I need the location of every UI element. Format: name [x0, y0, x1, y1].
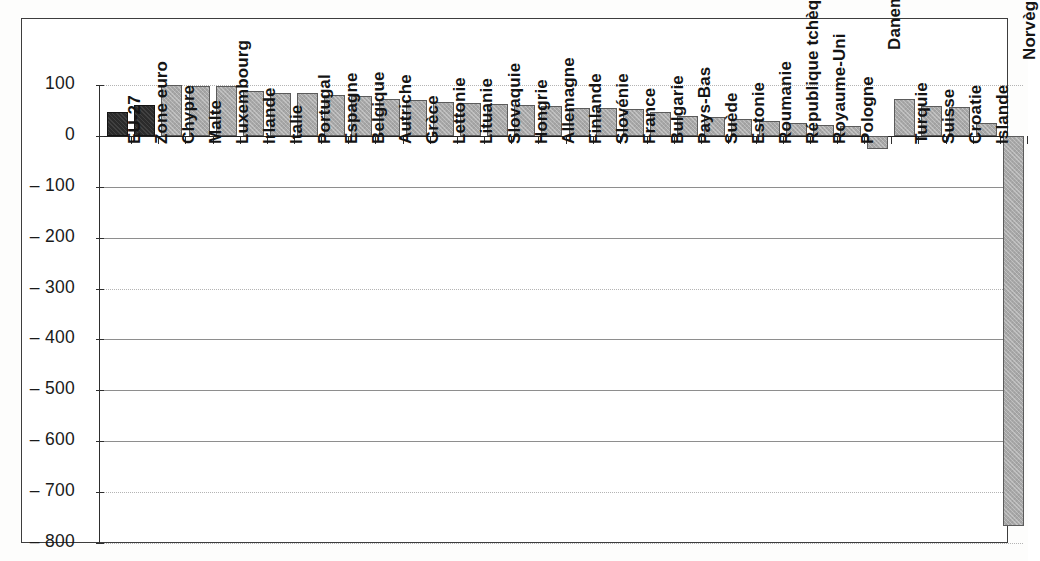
category-label: Suisse [939, 88, 959, 143]
category-label: Espagne [342, 72, 362, 144]
y-tick--100 [96, 187, 104, 188]
category-label: Lituanie [477, 78, 497, 144]
y-tick--600 [96, 441, 104, 442]
y-tick--200 [96, 238, 104, 239]
y-axis-tick-label: – 400 [0, 327, 75, 348]
gridline--500 [100, 390, 1023, 391]
y-axis-tick-label: – 200 [0, 226, 75, 247]
category-label: Roumanie [776, 61, 796, 144]
y-axis-tick-label: – 800 [0, 531, 75, 552]
y-tick-0 [96, 136, 104, 137]
category-label: République tchèque [803, 0, 823, 144]
category-label: Irlande [260, 87, 280, 143]
y-axis-tick-label: – 700 [0, 480, 75, 501]
gridline--400 [100, 339, 1023, 340]
gridline--700 [100, 492, 1023, 493]
gridline--200 [100, 238, 1023, 239]
y-tick--800 [96, 543, 104, 544]
bar[interactable] [1003, 136, 1024, 526]
y-tick-100 [96, 85, 104, 86]
y-axis-tick-label: 100 [0, 73, 75, 94]
category-label: Croatie [966, 85, 986, 144]
category-label: Turquie [912, 82, 932, 144]
category-label: Finlande [586, 73, 606, 144]
category-label: Lettonie [450, 77, 470, 144]
category-label: EU-27 [125, 95, 145, 144]
y-axis-tick-label: 0 [0, 124, 75, 145]
category-label: Slovaquie [505, 63, 525, 144]
category-label: Norvège [1020, 0, 1040, 60]
plot-area: EU-27Zone euroChypreMalteLuxembourgIrlan… [99, 85, 1022, 543]
category-label: Zone euro [152, 61, 172, 144]
y-tick--500 [96, 390, 104, 391]
gridline--100 [100, 187, 1023, 188]
category-label: Allemagne [559, 57, 579, 144]
category-label: Portugal [315, 74, 335, 144]
y-axis-tick-label: – 300 [0, 277, 75, 298]
x-tick [1027, 136, 1028, 144]
category-label: Slovénie [613, 73, 633, 144]
y-axis-tick-label: – 100 [0, 175, 75, 196]
category-label: Bulgarie [668, 75, 688, 144]
category-label: Suède [722, 92, 742, 144]
y-axis-tick-label: – 600 [0, 429, 75, 450]
y-tick--300 [96, 289, 104, 290]
y-axis-tick-label: – 500 [0, 378, 75, 399]
category-label: Malte [206, 100, 226, 144]
category-label: Danemark [885, 0, 905, 50]
gridline--800 [100, 543, 1023, 544]
gridline--300 [100, 289, 1023, 290]
category-label: Pologne [858, 76, 878, 144]
category-label: Pays-Bas [695, 67, 715, 144]
category-label: Estonie [749, 82, 769, 144]
category-label: Royaume-Uni [830, 33, 850, 144]
category-label: France [640, 88, 660, 144]
y-tick--700 [96, 492, 104, 493]
category-label: Islande [993, 85, 1013, 144]
category-label: Italie [287, 105, 307, 144]
y-tick--400 [96, 339, 104, 340]
category-label: Hongrie [532, 79, 552, 144]
chart-outer-frame: 1000– 100– 200– 300– 400– 500– 600– 700–… [21, 18, 1008, 543]
category-label: Chypre [179, 85, 199, 144]
category-label: Luxembourg [233, 40, 253, 144]
x-tick [891, 136, 892, 144]
category-label: Autriche [396, 74, 416, 144]
category-label: Belgique [369, 71, 389, 144]
gridline--600 [100, 441, 1023, 442]
category-label: Grèce [423, 95, 443, 144]
